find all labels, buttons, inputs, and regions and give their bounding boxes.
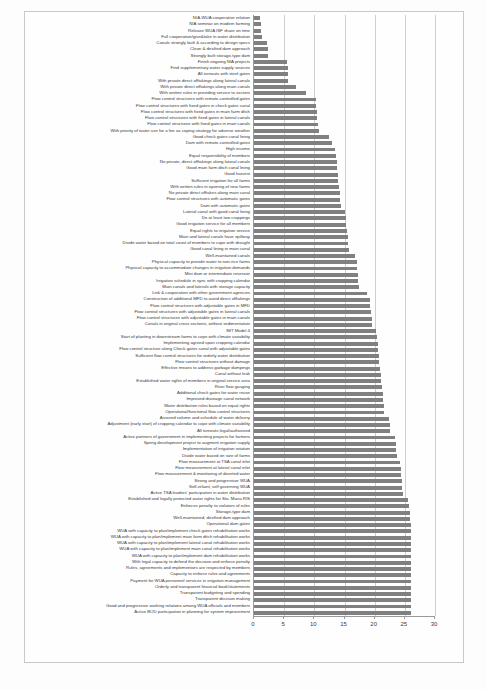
bar <box>254 317 372 321</box>
bar <box>254 47 268 51</box>
bar <box>254 292 367 296</box>
bar <box>254 598 411 602</box>
bar <box>254 22 261 26</box>
bar <box>254 542 411 546</box>
category-label: Active BOD participation in planning for… <box>25 609 253 615</box>
bar <box>254 404 384 408</box>
bar <box>254 116 317 120</box>
bar <box>254 29 261 33</box>
bar <box>254 448 396 452</box>
bar <box>254 392 383 396</box>
bar <box>254 385 382 389</box>
bar <box>254 348 378 352</box>
bar <box>254 605 411 609</box>
bar <box>254 60 287 64</box>
horizontal-bar-chart: NIA-WUA cooperative relationNIA seminar … <box>25 12 463 662</box>
bar <box>254 611 411 615</box>
x-tick-label: 30 <box>431 621 438 627</box>
bar <box>254 555 411 559</box>
bar <box>254 41 267 45</box>
bar <box>254 323 372 327</box>
bar <box>254 504 409 508</box>
bar <box>254 548 411 552</box>
bar <box>254 417 389 421</box>
chart-frame: NIA-WUA cooperative relationNIA seminar … <box>24 11 464 663</box>
x-tick-label: 15 <box>340 621 347 627</box>
x-tick-mark <box>283 616 284 619</box>
x-tick-mark <box>404 616 405 619</box>
bar <box>254 129 319 133</box>
bar <box>254 486 402 490</box>
bar <box>254 454 397 458</box>
bar <box>254 198 340 202</box>
bar <box>254 511 410 515</box>
bar <box>254 360 379 364</box>
bar <box>254 223 346 227</box>
bar <box>254 367 380 371</box>
bar <box>254 304 370 308</box>
bar <box>254 411 384 415</box>
x-tick-label: 25 <box>400 621 407 627</box>
bar <box>254 54 268 58</box>
bar <box>254 35 262 39</box>
bar <box>254 561 411 565</box>
x-tick-mark <box>344 616 345 619</box>
bar <box>254 235 348 239</box>
bar <box>254 529 411 533</box>
x-tick-mark <box>313 616 314 619</box>
bar <box>254 154 336 158</box>
bar <box>254 279 358 283</box>
bar <box>254 586 411 590</box>
bar <box>254 285 359 289</box>
x-tick-mark <box>374 616 375 619</box>
y-axis-line <box>253 15 254 616</box>
bar <box>254 442 396 446</box>
bar <box>254 498 408 502</box>
bar <box>254 429 390 433</box>
bar <box>254 166 337 170</box>
bar <box>254 216 346 220</box>
bar <box>254 185 339 189</box>
bar <box>254 273 358 277</box>
gridline <box>435 15 436 616</box>
bar <box>254 467 401 471</box>
bar <box>254 204 341 208</box>
bar <box>254 260 357 264</box>
bar <box>254 423 390 427</box>
bar <box>254 16 260 20</box>
bar <box>254 254 355 258</box>
bar <box>254 592 411 596</box>
bar <box>254 242 348 246</box>
bar <box>254 91 306 95</box>
bar <box>254 335 377 339</box>
bar <box>254 148 335 152</box>
bar <box>254 173 338 177</box>
bar <box>254 373 381 377</box>
bar <box>254 141 332 145</box>
bar <box>254 398 383 402</box>
bar <box>254 492 403 496</box>
bar <box>254 229 347 233</box>
bar <box>254 98 316 102</box>
x-tick-label: 20 <box>370 621 377 627</box>
bar <box>254 248 349 252</box>
bar <box>254 123 318 127</box>
bar <box>254 104 316 108</box>
bar <box>254 436 395 440</box>
bar <box>254 298 370 302</box>
bar <box>254 210 345 214</box>
category-label-column: NIA-WUA cooperative relationNIA seminar … <box>25 15 253 615</box>
bar <box>254 342 378 346</box>
bar <box>254 72 288 76</box>
bar <box>254 573 411 577</box>
bar <box>254 267 357 271</box>
bar <box>254 329 376 333</box>
bar <box>254 523 411 527</box>
x-tick-label: 0 <box>251 621 254 627</box>
x-tick-mark <box>253 616 254 619</box>
bar <box>254 66 288 70</box>
bar <box>254 379 381 383</box>
bar <box>254 461 400 465</box>
bar <box>254 135 329 139</box>
bar <box>254 473 401 477</box>
